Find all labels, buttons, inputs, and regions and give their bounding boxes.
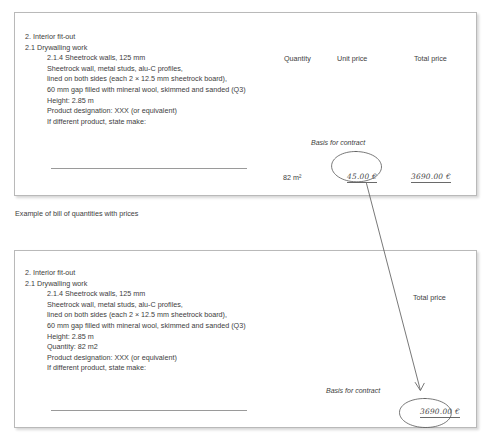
signature-rule-top [51,168,247,169]
specification-text-bottom: 2. Interior fit-out 2.1 Drywalling work … [25,268,246,374]
signature-rule-bottom [51,410,247,411]
figure-caption: Example of bill of quantities with price… [15,209,138,218]
spec-line: Height: 2.85 m [25,96,246,107]
spec-line: Product designation: XXX (or equivalent) [25,106,246,117]
bill-of-quantities-document-top: 2. Interior fit-out 2.1 Drywalling work … [14,12,477,196]
spec-line: 2.1.4 Sheetrock walls, 125 mm [25,289,246,300]
spec-line: lined on both sides (each 2 × 12.5 mm sh… [25,74,246,85]
spec-line: 2. Interior fit-out [25,268,246,279]
value-quantity-top: 82 m² [283,173,301,182]
spec-line: If different product, state make: [25,117,246,128]
spec-line: Sheetrock wall, metal studs, alu-C profi… [25,64,246,75]
column-header-total-price: Total price [413,293,446,302]
bill-of-quantities-document-bottom: 2. Interior fit-out 2.1 Drywalling work … [14,250,477,428]
spec-line: 60 mm gap filled with mineral wool, skim… [25,85,246,96]
spec-line: 2.1 Drywalling work [25,43,246,54]
annotation-basis-for-contract-bottom: Basis for contract [326,387,380,394]
spec-line: lined on both sides (each 2 × 12.5 mm sh… [25,310,246,321]
spec-line: Height: 2.85 m [25,332,246,343]
handwritten-unit-price-top: 45.00 € [347,172,377,183]
spec-line: Sheetrock wall, metal studs, alu-C profi… [25,300,246,311]
spec-line: If different product, state make: [25,363,246,374]
spec-line: 2. Interior fit-out [25,32,246,43]
column-header-quantity: Quantity [284,54,311,63]
page-canvas: 2. Interior fit-out 2.1 Drywalling work … [0,0,491,442]
spec-line: 60 mm gap filled with mineral wool, skim… [25,321,246,332]
annotation-basis-for-contract-top: Basis for contract [311,139,365,146]
spec-line: Product designation: XXX (or equivalent) [25,353,246,364]
specification-text-top: 2. Interior fit-out 2.1 Drywalling work … [25,32,246,127]
handwritten-total-price-bottom: 3690.00 € [420,407,460,418]
column-header-unit-price: Unit price [337,54,367,63]
column-header-total-price: Total price [414,54,447,63]
spec-line: Quantity: 82 m2 [25,342,246,353]
spec-line: 2.1 Drywalling work [25,279,246,290]
handwritten-total-price-top: 3690.00 € [411,172,451,183]
spec-line: 2.1.4 Sheetrock walls, 125 mm [25,53,246,64]
